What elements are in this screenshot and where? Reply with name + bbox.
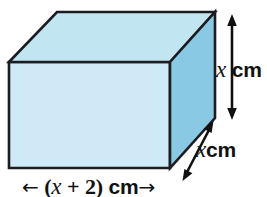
height-variable: x [216, 57, 226, 82]
cuboid-drawing [0, 0, 267, 197]
width-term: 2 [85, 174, 96, 197]
width-variable: x [51, 174, 61, 197]
depth-variable: x [196, 137, 206, 162]
width-right-arrow-icon: → [139, 175, 156, 197]
width-unit: cm [109, 175, 139, 197]
width-close-paren: ) [96, 174, 103, 197]
height-label: x cm [216, 58, 262, 81]
cuboid-front-face [9, 62, 170, 168]
width-left-arrow-icon: ← [22, 175, 39, 197]
depth-label: xcm [196, 138, 236, 161]
width-operator: + [67, 174, 79, 197]
depth-unit: cm [206, 138, 236, 161]
height-unit: cm [232, 58, 262, 81]
width-label: ← (x + 2) cm→ [22, 175, 155, 197]
cuboid-figure: x cm xcm ← (x + 2) cm→ [0, 0, 267, 197]
